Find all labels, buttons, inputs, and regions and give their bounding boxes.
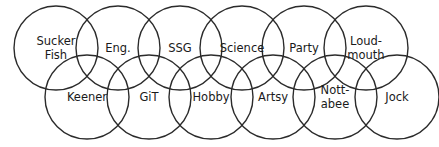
labels-layer: SuckerFishEng.SSGSciencePartyLoud-mouthK… [37,34,410,111]
label-science: Science [220,41,265,55]
label-hobby: Hobby [192,90,229,104]
label-git: GiT [139,90,159,104]
circles-layer [14,6,439,139]
label-sucker-fish: SuckerFish [37,34,76,62]
label-artsy: Artsy [258,90,288,104]
label-ssg: SSG [168,41,192,55]
label-keener: Keener [67,90,107,104]
label-nott-abee: Nott-abee [321,83,350,111]
label-loud-mouth: Loud-mouth [347,34,384,62]
label-party: Party [289,41,319,55]
label-jock: Jock [384,90,409,104]
circle-chain-diagram: SuckerFishEng.SSGSciencePartyLoud-mouthK… [0,0,439,147]
diagram-canvas: SuckerFishEng.SSGSciencePartyLoud-mouthK… [0,0,439,147]
label-eng: Eng. [105,41,131,55]
